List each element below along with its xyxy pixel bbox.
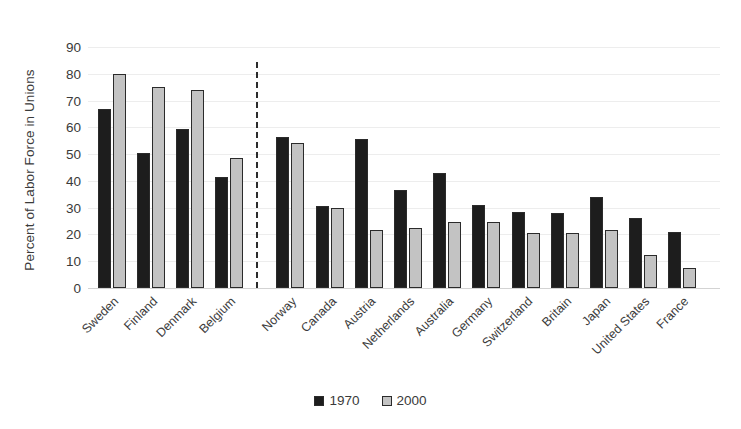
bar-britain-2000	[566, 233, 579, 288]
y-axis-tick-label: 70	[66, 93, 81, 108]
y-axis-tick-label: 90	[66, 40, 81, 55]
y-axis-title: Percent of Labor Force in Unions	[22, 20, 40, 320]
y-axis-tick-label: 20	[66, 227, 81, 242]
bar-germany-2000	[487, 222, 500, 288]
legend-label: 2000	[397, 393, 427, 408]
bar-austria-1970	[355, 139, 368, 288]
legend-entry-1970[interactable]: 1970	[314, 393, 359, 408]
bar-netherlands-2000	[409, 228, 422, 288]
gridline	[88, 47, 720, 48]
bar-sweden-1970	[98, 109, 111, 288]
union-membership-bar-chart: Percent of Labor Force in Unions 9080706…	[0, 0, 741, 429]
bar-switzerland-2000	[527, 233, 540, 288]
bar-switzerland-1970	[512, 212, 525, 288]
bar-austria-2000	[370, 230, 383, 288]
group-divider-dashed-line	[256, 62, 258, 288]
bar-germany-1970	[472, 205, 485, 288]
x-axis-label-france: France	[541, 295, 691, 429]
bar-australia-2000	[448, 222, 461, 288]
bar-japan-2000	[605, 230, 618, 288]
bar-united-states-1970	[629, 218, 642, 288]
bar-denmark-2000	[191, 90, 204, 288]
bar-japan-1970	[590, 197, 603, 288]
y-axis-tick-label: 80	[66, 66, 81, 81]
bar-norway-1970	[276, 137, 289, 288]
bar-netherlands-1970	[394, 190, 407, 288]
plot-area: 9080706050403020100	[88, 47, 720, 288]
gridline	[88, 288, 720, 289]
x-axis-label-sweden: Sweden	[0, 295, 120, 429]
y-axis-tick-label: 50	[66, 147, 81, 162]
y-axis-tick-label: 0	[73, 281, 81, 296]
bar-finland-1970	[137, 153, 150, 288]
gridline	[88, 101, 720, 102]
chart-legend: 19702000	[0, 393, 741, 408]
y-axis-tick-label: 60	[66, 120, 81, 135]
bar-sweden-2000	[113, 74, 126, 288]
bar-australia-1970	[433, 173, 446, 288]
legend-entry-2000[interactable]: 2000	[382, 393, 427, 408]
bar-norway-2000	[291, 143, 304, 288]
y-axis-tick-label: 30	[66, 200, 81, 215]
legend-swatch-icon-1970	[314, 396, 324, 406]
bar-canada-2000	[331, 208, 344, 288]
bar-britain-1970	[551, 213, 564, 288]
bar-belgium-2000	[230, 158, 243, 288]
gridline	[88, 74, 720, 75]
y-axis-tick-label: 10	[66, 254, 81, 269]
bar-belgium-1970	[215, 177, 228, 288]
bar-france-1970	[668, 232, 681, 288]
bar-france-2000	[683, 268, 696, 288]
bar-united-states-2000	[644, 255, 657, 288]
y-axis-tick-label: 40	[66, 173, 81, 188]
legend-swatch-icon-2000	[382, 396, 392, 406]
bar-canada-1970	[316, 206, 329, 288]
legend-label: 1970	[329, 393, 359, 408]
bar-denmark-1970	[176, 129, 189, 288]
bar-finland-2000	[152, 87, 165, 288]
